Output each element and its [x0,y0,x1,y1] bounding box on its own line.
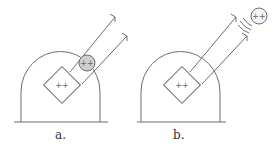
panel-b: ++ ++ [137,8,267,122]
sphere-label: ++ [80,59,93,68]
sphere-label: ++ [252,12,265,21]
motion-lines-icon [238,18,252,33]
charge-box-label: ++ [55,81,68,90]
caption-b: b. [173,128,185,142]
charge-box-label: ++ [175,81,188,90]
launch-tube [70,14,127,84]
caption-a: a. [55,128,66,142]
panel-a: ++ ++ [14,14,127,122]
diagram-canvas: ++ ++ ++ ++ [0,0,277,149]
launch-tube [190,14,247,84]
